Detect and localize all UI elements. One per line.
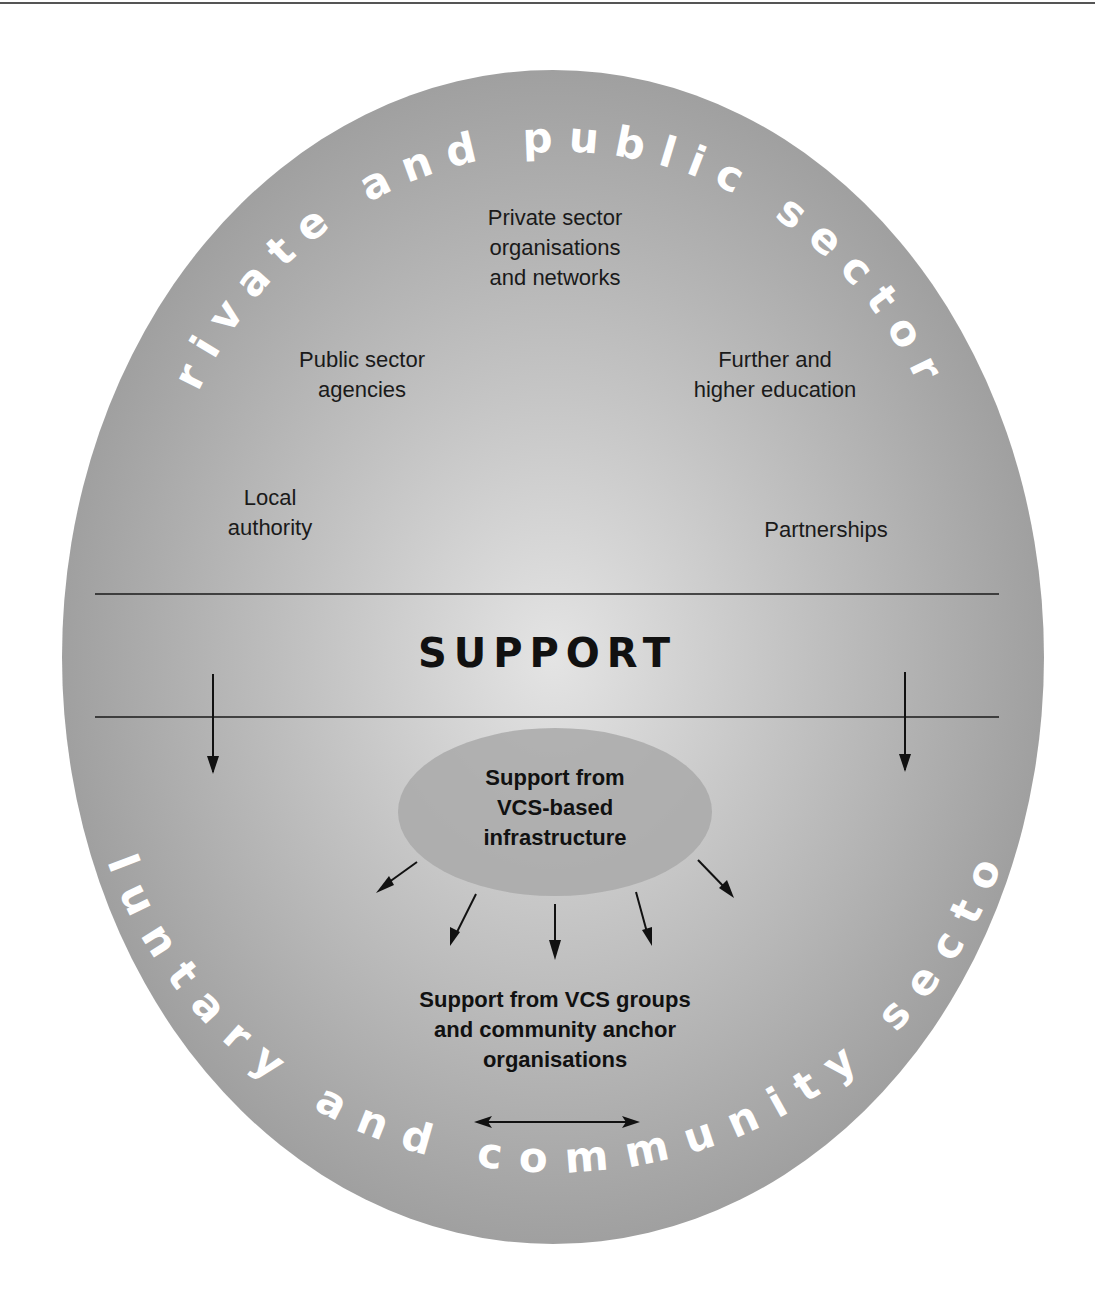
node-local-authority: Local authority (200, 483, 340, 543)
node-private-sector: Private sector organisations and network… (440, 203, 670, 293)
node-vcs-infrastructure: Support from VCS-based infrastructure (405, 763, 705, 853)
node-vcs-groups: Support from VCS groups and community an… (355, 985, 755, 1075)
node-public-sector: Public sector agencies (262, 345, 462, 405)
node-further-higher-education: Further and higher education (660, 345, 890, 405)
node-partnerships: Partnerships (736, 515, 916, 545)
support-band-label: SUPPORT (0, 630, 1095, 676)
